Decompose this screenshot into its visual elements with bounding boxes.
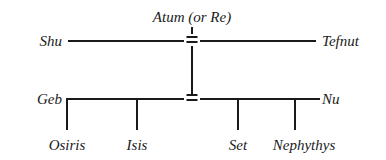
family-tree-diagram: Atum (or Re) Shu Tefnut Geb Nu Osiris Is…: [0, 0, 386, 160]
marriage-line-left-gen2: [66, 98, 184, 100]
marriage-line-right-gen1: [200, 40, 316, 42]
node-label-nephythys: Nephythys: [273, 138, 335, 153]
node-label-set: Set: [229, 138, 247, 153]
descent-tick-nephythys: [294, 99, 296, 130]
descent-tick-isis: [136, 99, 138, 130]
descent-tick-osiris: [66, 99, 68, 130]
node-label-nu: Nu: [322, 92, 340, 107]
marriage-symbol-gen1: [187, 36, 198, 43]
node-label-atum: Atum (or Re): [153, 10, 231, 25]
descent-line-gen1-to-gen2: [191, 46, 193, 94]
marriage-line-right-gen2: [200, 98, 320, 100]
marriage-symbol-gen2: [187, 94, 198, 101]
node-label-shu: Shu: [40, 34, 63, 49]
node-label-isis: Isis: [127, 138, 148, 153]
node-label-osiris: Osiris: [49, 138, 86, 153]
descent-stub-atum: [191, 27, 193, 34]
node-label-geb: Geb: [37, 92, 62, 107]
marriage-line-left-gen1: [68, 40, 184, 42]
descent-tick-set: [237, 99, 239, 130]
node-label-tefnut: Tefnut: [322, 34, 359, 49]
